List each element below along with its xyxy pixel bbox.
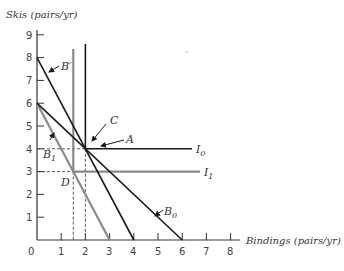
y-tick-9: 9	[26, 30, 32, 41]
annotation-arrows	[49, 66, 163, 216]
label-b-prime: B′	[60, 60, 72, 73]
x-tick-5: 5	[155, 246, 161, 257]
y-tick-4: 4	[26, 144, 32, 155]
indifference-curve-i1	[73, 49, 200, 172]
origin-label: 0	[28, 246, 34, 257]
label-b0: B0	[163, 205, 177, 220]
x-tick-6: 6	[179, 246, 185, 257]
arrow-b-prime	[49, 66, 59, 72]
y-tick-2: 2	[26, 189, 32, 200]
x-axis-title: Bindings (pairs/yr)	[245, 235, 341, 246]
x-tick-8: 8	[227, 246, 233, 257]
arrow-b0	[155, 210, 163, 216]
label-i1: I1	[203, 166, 213, 181]
label-d: D	[60, 176, 70, 189]
label-i0: I0	[195, 143, 205, 158]
arrow-c	[92, 124, 106, 141]
y-tick-labels: 1 2 3 4 5 6 7 8 9	[26, 30, 32, 223]
chart-canvas: Skis (pairs/yr) Bindings (pairs/yr) 1 2 …	[0, 0, 344, 271]
x-tick-4: 4	[130, 246, 136, 257]
y-tick-3: 3	[26, 166, 32, 177]
arrow-b1	[50, 133, 54, 140]
arrow-a	[101, 140, 124, 146]
label-a: A	[125, 133, 134, 146]
y-axis-title: Skis (pairs/yr)	[6, 9, 78, 20]
x-tick-labels: 0 1 2 3 4 5 6 7 8	[28, 246, 233, 257]
y-ticks	[37, 35, 44, 217]
label-b1: B1	[42, 148, 56, 163]
y-tick-8: 8	[26, 52, 32, 63]
label-c: C	[110, 114, 119, 127]
x-tick-2: 2	[82, 246, 88, 257]
x-ticks	[61, 233, 230, 240]
x-tick-3: 3	[106, 246, 112, 257]
y-tick-6: 6	[26, 98, 32, 109]
y-tick-5: 5	[26, 121, 32, 132]
y-tick-7: 7	[26, 75, 32, 86]
x-tick-7: 7	[203, 246, 209, 257]
x-tick-1: 1	[58, 246, 64, 257]
y-tick-1: 1	[26, 212, 32, 223]
indifference-curve-i0	[85, 44, 192, 149]
guide-lines	[37, 149, 85, 240]
